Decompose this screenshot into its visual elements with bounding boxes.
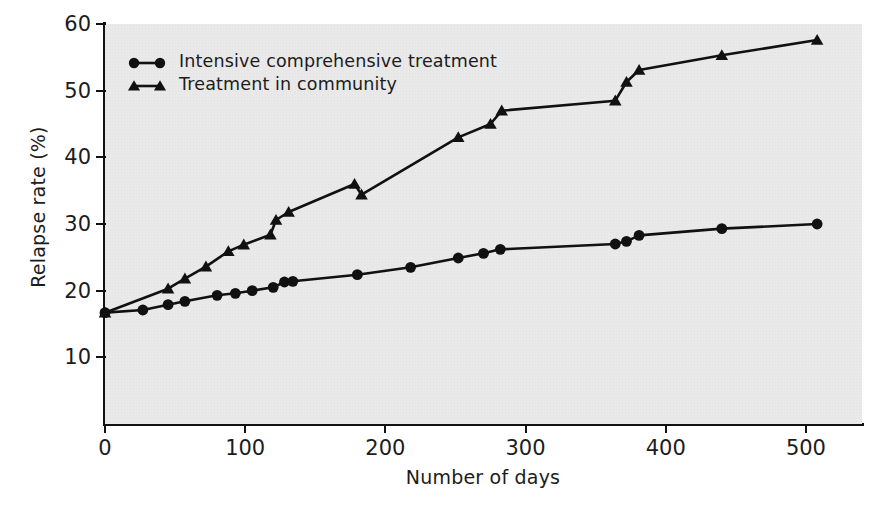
x-tick-300 — [525, 424, 527, 433]
data-point-circle — [405, 262, 416, 273]
data-point-circle — [478, 248, 489, 259]
x-tick-400 — [665, 424, 667, 433]
legend-label: Intensive comprehensive treatment — [179, 50, 497, 73]
x-tick-500 — [805, 424, 807, 433]
data-point-triangle — [348, 178, 361, 189]
data-point-circle — [247, 285, 258, 296]
data-point-circle — [716, 223, 727, 234]
legend-item-2[interactable]: Treatment in community — [127, 73, 497, 96]
y-tick-label-60: 60 — [64, 12, 91, 36]
x-axis-title: Number of days — [103, 466, 863, 488]
chart-legend: Intensive comprehensive treatmentTreatme… — [127, 50, 497, 96]
x-tick-200 — [384, 424, 386, 433]
y-tick-label-50: 50 — [64, 79, 91, 103]
data-point-circle — [610, 239, 621, 250]
data-point-circle — [453, 253, 464, 264]
x-tick-label-500: 500 — [786, 436, 826, 460]
plot-area: 102030405060 0100200300400500 Intensive … — [105, 24, 862, 424]
data-point-triangle — [162, 283, 175, 294]
y-tick-label-20: 20 — [64, 279, 91, 303]
data-point-circle — [812, 219, 823, 230]
x-tick-label-400: 400 — [646, 436, 686, 460]
data-point-triangle — [264, 229, 277, 240]
y-tick-label-30: 30 — [64, 212, 91, 236]
x-tick-label-200: 200 — [365, 436, 405, 460]
data-point-circle — [495, 244, 506, 255]
data-point-circle — [163, 299, 174, 310]
legend-item-1[interactable]: Intensive comprehensive treatment — [127, 50, 497, 73]
data-point-triangle — [179, 273, 192, 284]
data-point-circle — [230, 288, 241, 299]
data-point-circle — [634, 230, 645, 241]
x-tick-100 — [244, 424, 246, 433]
data-point-triangle — [811, 34, 824, 45]
x-tick-0 — [104, 424, 106, 433]
data-point-circle — [268, 282, 279, 293]
y-axis-title: Relapse rate (%) — [27, 97, 49, 317]
data-point-circle — [137, 305, 148, 316]
data-point-circle — [621, 236, 632, 247]
legend-label: Treatment in community — [179, 73, 397, 96]
data-point-circle — [287, 276, 298, 287]
x-tick-label-0: 0 — [98, 436, 111, 460]
data-point-triangle — [270, 214, 283, 225]
data-point-circle — [180, 296, 191, 307]
y-tick-label-10: 10 — [64, 345, 91, 369]
legend-triangle-marker-icon — [127, 75, 173, 95]
data-point-circle — [212, 290, 223, 301]
legend-circle-marker-icon — [127, 52, 173, 72]
y-tick-label-40: 40 — [64, 145, 91, 169]
x-tick-label-100: 100 — [225, 436, 265, 460]
data-point-circle — [352, 269, 363, 280]
chart-figure: Relapse rate (%) Number of days 10203040… — [0, 0, 886, 506]
series-line — [105, 224, 817, 313]
x-tick-label-300: 300 — [506, 436, 546, 460]
